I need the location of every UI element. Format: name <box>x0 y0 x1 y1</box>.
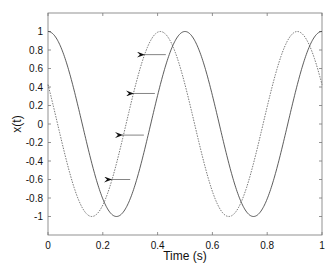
y-tick-label: -0.2 <box>26 137 44 148</box>
y-tick-label: -0.8 <box>26 193 44 204</box>
x-axis-label: Time (s) <box>163 249 207 263</box>
line-chart: 00.20.40.60.81 10.80.60.40.20-0.2-0.4-0.… <box>0 0 332 275</box>
y-axis-label: x(t) <box>10 115 24 132</box>
x-tick-label: 1 <box>319 240 325 251</box>
x-tick-label: 0 <box>45 240 51 251</box>
y-tick-labels: 10.80.60.40.20-0.2-0.4-0.6-0.8-1 <box>26 26 44 222</box>
x-tick-label: 0.6 <box>205 240 219 251</box>
y-tick-label: 0.2 <box>29 100 43 111</box>
y-tick-label: 0 <box>37 119 43 130</box>
y-tick-label: 0.8 <box>29 45 43 56</box>
y-tick-label: -0.6 <box>26 174 44 185</box>
y-tick-label: 1 <box>37 26 43 37</box>
axes-frame <box>48 13 322 235</box>
x-tick-label: 0.2 <box>96 240 110 251</box>
y-tick-label: -0.4 <box>26 156 44 167</box>
x-tick-label: 0.8 <box>260 240 274 251</box>
y-tick-label: 0.6 <box>29 63 43 74</box>
y-tick-label: -1 <box>34 211 43 222</box>
y-tick-label: 0.4 <box>29 82 43 93</box>
